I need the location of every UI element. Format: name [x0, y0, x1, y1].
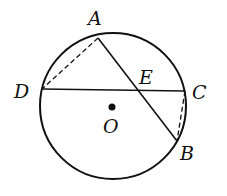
label-a: A — [86, 7, 102, 29]
dashed-segment-ad — [42, 38, 98, 89]
chord-dc — [42, 89, 185, 91]
center-point-o — [109, 104, 116, 111]
label-e: E — [138, 66, 153, 88]
label-c: C — [192, 81, 207, 103]
label-d: D — [13, 80, 29, 102]
geometry-diagram: A B C D E O — [0, 0, 227, 196]
label-o: O — [103, 115, 119, 137]
label-b: B — [179, 142, 194, 164]
